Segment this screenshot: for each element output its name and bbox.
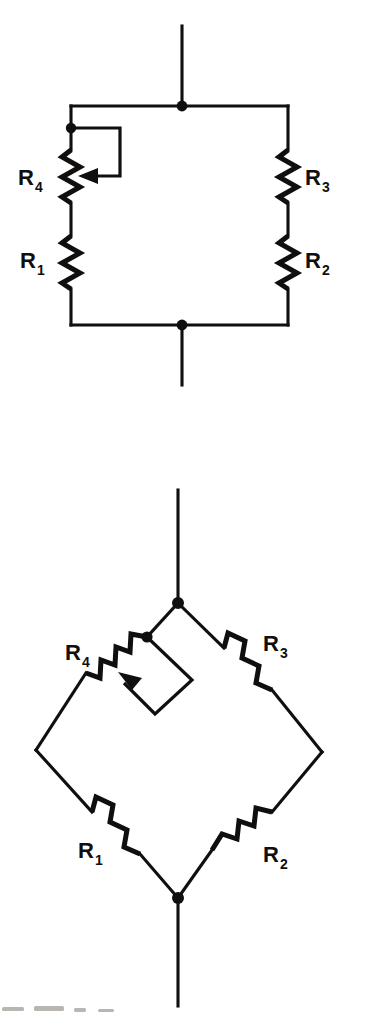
circuit-diagram-canvas: R 4 R 1 R 3 R 2 bbox=[0, 0, 373, 1016]
diamond-lower-left-wire-top bbox=[36, 750, 92, 812]
label-r2-square-subscript: 2 bbox=[322, 262, 330, 278]
resistor-symbol-r4-diamond bbox=[86, 634, 147, 678]
node-diamond-bottom-apex bbox=[172, 892, 184, 904]
wiper-bracket-r4-diamond bbox=[124, 637, 192, 714]
scan-smudge-a bbox=[2, 1007, 24, 1011]
label-r1-square-letter: R bbox=[20, 248, 36, 273]
node-square-wiper-tap bbox=[66, 123, 76, 133]
label-r3-square-letter: R bbox=[305, 165, 321, 190]
resistor-symbol-r1-square bbox=[62, 236, 80, 289]
label-r4-diamond-subscript: 4 bbox=[82, 654, 90, 670]
resistor-symbol-r1-diamond bbox=[92, 797, 140, 854]
label-r1-diamond-subscript: 1 bbox=[95, 852, 103, 868]
wiper-arrow-r4-square bbox=[78, 168, 98, 184]
diamond-upper-right-wire-top bbox=[178, 603, 224, 648]
label-r4-square-subscript: 4 bbox=[35, 179, 43, 195]
label-r3-diamond-subscript: 3 bbox=[280, 645, 288, 661]
node-diamond-wiper-tap bbox=[141, 631, 152, 642]
diamond-upper-left-wire-bottom bbox=[36, 673, 86, 750]
scan-smudge-b bbox=[34, 1006, 64, 1011]
diamond-lower-left-wire-bottom bbox=[140, 854, 178, 898]
label-r3-square-subscript: 3 bbox=[322, 179, 330, 195]
label-r4-square-letter: R bbox=[18, 165, 34, 190]
resistor-symbol-r3-square bbox=[279, 150, 297, 203]
figure-diamond-bridge: R 4 R 1 R 3 R 2 bbox=[36, 490, 322, 1006]
diamond-upper-left-wire-top bbox=[147, 603, 178, 637]
resistor-symbol-r4-square bbox=[62, 150, 80, 203]
label-r2-square: R 2 bbox=[305, 248, 330, 278]
label-r4-diamond-letter: R bbox=[65, 640, 81, 665]
scan-smudge-c bbox=[74, 1008, 86, 1012]
diamond-lower-right-wire-top bbox=[272, 752, 322, 812]
diamond-lower-right-wire-bottom bbox=[178, 850, 212, 898]
label-r4-square: R 4 bbox=[18, 165, 43, 195]
node-diamond-top-apex bbox=[172, 597, 184, 609]
label-r2-diamond-subscript: 2 bbox=[280, 856, 288, 872]
resistor-symbol-r2-square bbox=[279, 236, 297, 289]
label-r1-diamond: R 1 bbox=[78, 838, 103, 868]
label-r4-diamond: R 4 bbox=[65, 640, 90, 670]
node-square-top-terminal bbox=[177, 101, 188, 112]
label-r1-square: R 1 bbox=[20, 248, 45, 278]
figure-sheet: R 4 R 1 R 3 R 2 bbox=[0, 0, 373, 1016]
scan-smudge-d bbox=[98, 1009, 114, 1012]
diamond-upper-right-wire-bottom bbox=[272, 690, 322, 752]
label-r3-diamond: R 3 bbox=[263, 631, 288, 661]
label-r2-diamond-letter: R bbox=[263, 842, 279, 867]
label-r2-diamond: R 2 bbox=[263, 842, 288, 872]
node-square-bottom-terminal bbox=[177, 320, 188, 331]
label-r1-diamond-letter: R bbox=[78, 838, 94, 863]
figure-square-bridge: R 4 R 1 R 3 R 2 bbox=[18, 26, 330, 385]
wiper-arrow-r4-diamond bbox=[118, 672, 142, 690]
label-r1-square-subscript: 1 bbox=[37, 262, 45, 278]
label-r2-square-letter: R bbox=[305, 248, 321, 273]
label-r3-diamond-letter: R bbox=[263, 631, 279, 656]
scan-artifacts bbox=[2, 1006, 114, 1012]
label-r3-square: R 3 bbox=[305, 165, 330, 195]
